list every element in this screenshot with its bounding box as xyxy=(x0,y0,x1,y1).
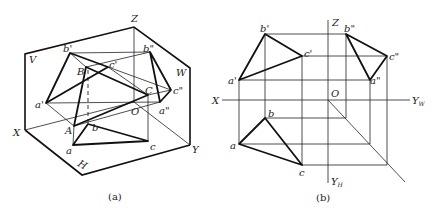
label-B: B xyxy=(76,66,84,77)
label-a-prime: a' xyxy=(228,75,237,86)
label-v: V xyxy=(29,54,38,65)
h-plane-frame xyxy=(25,130,190,175)
label-w: W xyxy=(176,67,187,78)
label-c: c xyxy=(150,141,156,152)
label-a-prime: a' xyxy=(35,99,44,110)
proj-line xyxy=(108,67,148,95)
label-c-prime: c' xyxy=(304,48,312,59)
label-a-dprime: a" xyxy=(159,105,170,116)
label-A: A xyxy=(64,125,72,136)
label-x: X xyxy=(12,127,21,138)
label-c: c xyxy=(299,167,305,178)
triangle-v-projection xyxy=(46,53,108,103)
triangle-front-view xyxy=(239,34,302,80)
caption-b: (b) xyxy=(316,192,330,203)
label-o: O xyxy=(131,106,139,117)
label-a-dprime: a" xyxy=(370,75,381,86)
triangle-h-projection xyxy=(73,124,148,145)
triangle-spatial xyxy=(74,67,148,126)
label-yw: YW xyxy=(412,95,426,107)
proj-line xyxy=(46,103,74,126)
label-x: X xyxy=(211,95,220,106)
label-o: O xyxy=(331,88,339,99)
proj-line xyxy=(86,52,150,67)
label-z: Z xyxy=(331,17,340,28)
label-c-prime: c' xyxy=(109,59,117,70)
label-b: b xyxy=(92,122,98,133)
label-b-dprime: b" xyxy=(344,23,355,34)
triangle-side-view xyxy=(346,34,387,80)
label-z: Z xyxy=(130,13,139,24)
label-b-prime: b' xyxy=(63,43,72,54)
figure-a-pictorial: Z V W X Y O H b' c' a' B C A b" c" a" b … xyxy=(12,13,200,202)
triangle-w-projection xyxy=(150,52,171,102)
proj-line xyxy=(73,126,74,145)
label-c-dprime: c" xyxy=(389,51,399,62)
label-c-dprime: c" xyxy=(173,85,183,96)
label-C: C xyxy=(145,85,153,96)
projection-diagram: Z V W X Y O H b' c' a' B C A b" c" a" b … xyxy=(0,0,438,210)
label-a: a xyxy=(66,145,72,156)
figure-b-orthographic: Z X O YW YH b' c' a' b" c" a" b a c (b) xyxy=(211,17,426,203)
v-w-plane-frame xyxy=(25,27,190,145)
proj-line xyxy=(70,52,150,53)
triangle-top-view xyxy=(239,118,302,165)
label-b-prime: b' xyxy=(260,23,269,34)
label-yh: YH xyxy=(331,176,344,188)
label-h: H xyxy=(75,157,89,172)
diagonal-45 xyxy=(328,100,405,182)
label-b: b xyxy=(268,108,274,119)
label-y: Y xyxy=(192,144,200,155)
label-a: a xyxy=(230,140,236,151)
proj-line xyxy=(108,67,171,90)
caption-a: (a) xyxy=(108,191,122,202)
proj-line xyxy=(46,102,160,103)
label-b-dprime: b" xyxy=(143,43,154,54)
